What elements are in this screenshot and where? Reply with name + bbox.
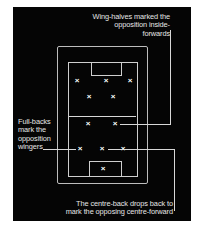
player-marker: × [102,77,110,85]
player-marker: × [126,77,134,85]
wing-halves-leader-vertical [170,30,171,124]
player-marker: × [99,165,107,173]
player-marker: × [73,77,81,85]
centre-back-leader-vertical [174,149,175,211]
annotation-line: mark the opposing centre-forward [64,208,173,216]
player-marker: × [85,93,93,101]
top-penalty-box [91,62,122,76]
player-marker: × [98,145,106,153]
annotation-line: opposition inside-forwards [88,21,170,38]
centre-back-annotation: The centre-back drops back to mark the o… [64,200,173,217]
player-marker: × [76,145,84,153]
player-marker: × [84,120,92,128]
player-marker: × [109,93,117,101]
annotation-line: wingers [18,143,58,151]
centre-back-leader-horizontal [108,149,175,150]
halfway-line [69,116,136,117]
full-backs-annotation: Full-backs mark the opposition wingers [18,118,58,152]
wing-halves-annotation: Wing-halves marked the opposition inside… [88,13,170,38]
player-marker: × [111,120,119,128]
full-backs-leader [43,149,76,150]
wing-halves-leader-horizontal [120,124,171,125]
